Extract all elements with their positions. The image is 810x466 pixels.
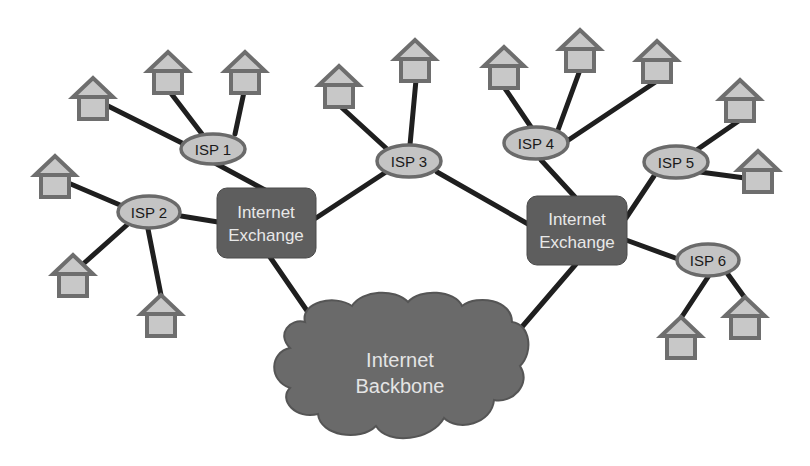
link-isp2-ix-left — [181, 216, 218, 222]
isp-node-1: ISP 1 — [181, 134, 245, 164]
exchange-right-label-line2: Exchange — [539, 233, 615, 252]
house-icon — [637, 41, 677, 82]
link-isp6-house2 — [727, 273, 745, 298]
house-icon — [560, 30, 600, 71]
backbone-label-line1: Internet — [366, 349, 434, 371]
link-isp2-house2 — [82, 224, 128, 265]
house-icon — [73, 78, 113, 119]
house-icon — [148, 52, 188, 93]
link-isp5-house2 — [700, 172, 745, 178]
link-isp2-house1 — [66, 182, 120, 205]
link-isp4-house1 — [504, 87, 531, 127]
link-isp4-house3 — [567, 81, 657, 141]
link-isp6-ix-right — [626, 240, 678, 259]
backbone-label-line2: Backbone — [356, 375, 445, 397]
exchange-right-label-line1: Internet — [548, 210, 606, 229]
isp-node-3: ISP 3 — [377, 145, 441, 177]
isp-node-6: ISP 6 — [677, 244, 739, 276]
house-icon — [225, 52, 265, 93]
house-icon — [141, 295, 181, 336]
house-icon — [395, 40, 435, 81]
link-isp1-house2 — [170, 92, 202, 134]
house-icon — [319, 66, 359, 107]
link-isp2-house3 — [148, 229, 161, 295]
isp-2-label: ISP 2 — [131, 204, 167, 221]
internet-exchange-right: Internet Exchange — [527, 196, 627, 265]
link-isp6-house1 — [681, 277, 708, 318]
house-icon — [35, 156, 75, 197]
isp-node-5: ISP 5 — [644, 146, 708, 178]
isp-node-4: ISP 4 — [504, 127, 568, 159]
isp-node-2: ISP 2 — [118, 196, 180, 228]
house-icon — [484, 47, 524, 88]
link-isp5-ix-right — [626, 176, 654, 218]
exchange-left-label-line2: Exchange — [228, 226, 304, 245]
internet-exchange-left: Internet Exchange — [217, 188, 316, 258]
link-isp1-house1 — [104, 104, 186, 145]
exchange-left-label-line1: Internet — [237, 203, 295, 222]
link-isp3-ix-right — [437, 172, 528, 224]
network-diagram: Internet Backbone Internet Exchange Inte… — [0, 0, 810, 466]
internet-backbone-cloud: Internet Backbone — [274, 293, 528, 439]
link-isp3-house1 — [340, 106, 387, 149]
link-isp3-house2 — [410, 80, 416, 145]
house-icon — [720, 80, 760, 121]
link-isp1-ix-left — [213, 162, 265, 190]
isp-1-label: ISP 1 — [195, 141, 231, 158]
house-icon — [725, 297, 765, 338]
link-ix-right-backbone — [515, 264, 576, 335]
link-isp4-house2 — [558, 70, 580, 130]
isp-5-label: ISP 5 — [658, 154, 694, 171]
isp-4-label: ISP 4 — [518, 135, 554, 152]
link-isp1-house3 — [235, 92, 244, 134]
link-isp3-ix-left — [316, 172, 386, 218]
link-isp4-ix-right — [541, 160, 575, 197]
link-isp5-house1 — [698, 120, 740, 149]
house-icon — [738, 151, 778, 192]
isp-6-label: ISP 6 — [690, 252, 726, 269]
house-icon — [661, 317, 701, 358]
isp-3-label: ISP 3 — [391, 153, 427, 170]
link-ix-left-backbone — [270, 257, 312, 318]
